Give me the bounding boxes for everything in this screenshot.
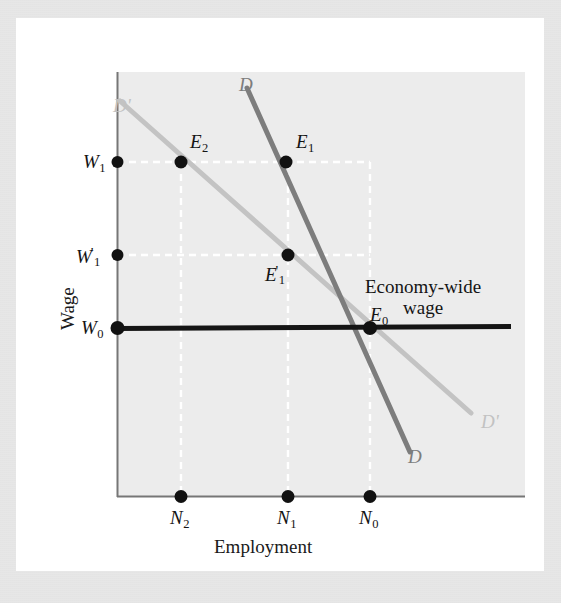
point-E1 [280, 156, 293, 169]
x-tick-label-N2: N2 [170, 508, 189, 530]
axis-point-N0 [364, 490, 377, 503]
curve-label-d-prime-top: D' [113, 96, 131, 115]
point-E2 [175, 156, 188, 169]
axis-point-W0 [111, 321, 125, 335]
economy-wide-wage-annotation: Economy-wide wage [365, 276, 481, 319]
axis-point-W1-prime [112, 249, 124, 261]
y-tick-label-W1: W1 [83, 152, 106, 174]
y-axis-title: Wage [58, 287, 77, 330]
x-axis-title: Employment [214, 537, 312, 556]
figure-canvas: Wage Employment W1 W'1 W0 N2 N1 N0 E2 E1… [0, 0, 561, 603]
curve-label-d-prime-bottom: D' [481, 412, 499, 431]
point-E1-prime [282, 249, 295, 262]
x-tick-label-N1: N1 [277, 508, 296, 530]
y-tick-label-W1-prime: W'1 [76, 245, 100, 269]
curve-label-d-bottom: D [408, 447, 422, 466]
axis-point-N2 [175, 490, 188, 503]
x-tick-label-N0: N0 [359, 508, 378, 530]
economy-wide-wage-line [117, 327, 511, 329]
y-tick-label-W0: W0 [81, 318, 104, 340]
axis-point-N1 [282, 490, 295, 503]
axis-point-W1 [112, 156, 124, 168]
point-label-E2: E2 [190, 132, 208, 154]
point-label-E1: E1 [296, 132, 314, 154]
point-label-E1-prime: E'1 [265, 263, 285, 287]
curve-label-d-top: D [239, 75, 253, 94]
